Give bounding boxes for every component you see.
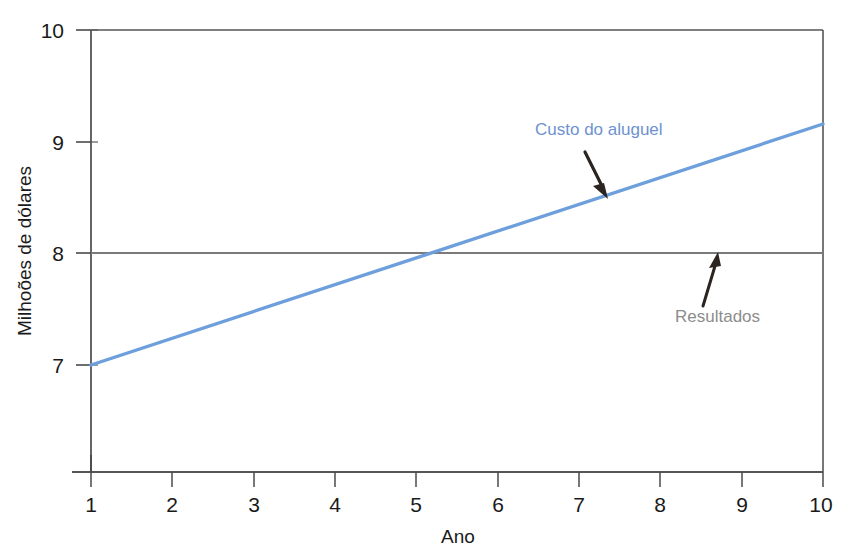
x-tick-label-3: 3 — [248, 493, 260, 516]
x-tick-label-5: 5 — [410, 493, 422, 516]
y-tick-label-9: 9 — [52, 131, 64, 154]
annotation-label-custo-do-aluguel: Custo do aluguel — [535, 120, 663, 139]
x-tick-label-1: 1 — [85, 493, 97, 516]
x-tick-label-9: 9 — [736, 493, 748, 516]
annotation-label-resultados: Resultados — [675, 307, 760, 326]
x-tick-label-2: 2 — [166, 493, 178, 516]
y-axis-ticks — [76, 30, 91, 365]
x-tick-label-7: 7 — [573, 493, 585, 516]
x-tick-label-4: 4 — [329, 493, 341, 516]
x-tick-label-6: 6 — [492, 493, 504, 516]
chart-canvas: 10 9 8 7 1 2 3 4 5 6 7 8 9 10 Ano — [0, 0, 846, 554]
x-axis-ticks — [91, 472, 823, 487]
y-tick-label-8: 8 — [52, 242, 64, 265]
plot-area-background — [91, 30, 823, 472]
x-tick-label-10: 10 — [809, 493, 832, 516]
x-axis-title: Ano — [441, 526, 475, 547]
y-tick-label-7: 7 — [52, 354, 64, 377]
x-tick-label-8: 8 — [654, 493, 666, 516]
break-even-line-chart: 10 9 8 7 1 2 3 4 5 6 7 8 9 10 Ano — [0, 0, 846, 554]
y-axis-title: Milhoões de dólares — [14, 166, 35, 336]
y-tick-label-10: 10 — [41, 19, 64, 42]
